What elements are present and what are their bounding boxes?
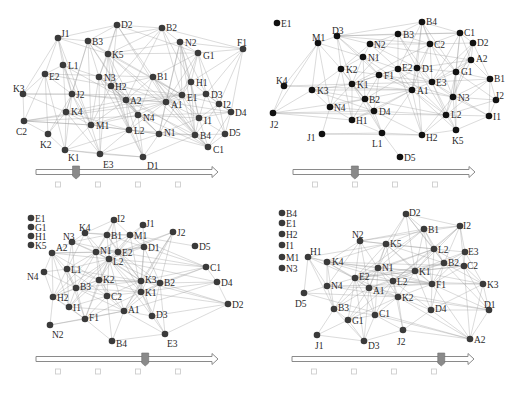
node-dot[interactable] (41, 269, 48, 276)
node-b2[interactable]: B2 (441, 258, 460, 268)
node-dot[interactable] (156, 131, 163, 138)
node-l1[interactable]: L1 (372, 130, 385, 149)
node-j1[interactable]: J1 (314, 332, 324, 351)
node-dot[interactable] (205, 144, 212, 151)
node-dot[interactable] (225, 301, 232, 308)
slider-tick-checkbox[interactable] (433, 182, 438, 187)
node-dot[interactable] (309, 87, 316, 94)
node-dot[interactable] (121, 308, 128, 315)
slider-tick-checkbox[interactable] (352, 369, 357, 374)
node-k4[interactable]: K4 (79, 223, 91, 237)
node-e2[interactable]: E2 (42, 71, 60, 82)
node-dot[interactable] (375, 265, 382, 272)
node-k3[interactable]: K3 (480, 280, 499, 290)
node-dot[interactable] (123, 97, 130, 104)
node-b2[interactable]: B2 (159, 23, 178, 33)
node-c2[interactable]: C2 (104, 292, 123, 302)
node-dot[interactable] (159, 25, 166, 32)
node-dot[interactable] (135, 112, 142, 119)
node-m1[interactable]: M1 (312, 33, 325, 47)
slider-track-arrow[interactable] (293, 167, 475, 178)
node-i2[interactable]: I2 (111, 214, 125, 224)
node-dot[interactable] (397, 154, 404, 161)
node-dot[interactable] (222, 131, 229, 138)
slider-tick-checkbox[interactable] (312, 369, 317, 374)
node-dot[interactable] (279, 242, 286, 249)
node-b4[interactable]: B4 (109, 338, 128, 349)
node-e2[interactable]: E2 (395, 63, 413, 73)
node-f1[interactable]: F1 (237, 38, 247, 53)
node-k3[interactable]: K3 (13, 84, 26, 98)
node-b2[interactable]: B2 (362, 95, 381, 105)
node-dot[interactable] (367, 41, 374, 48)
node-n4[interactable]: N4 (27, 269, 47, 282)
node-k1[interactable]: K1 (138, 288, 157, 298)
node-dot[interactable] (453, 127, 460, 134)
node-dot[interactable] (431, 246, 438, 253)
node-d2[interactable]: D2 (470, 38, 489, 48)
node-dot[interactable] (338, 66, 345, 73)
node-dot[interactable] (109, 338, 116, 345)
node-n2[interactable]: N2 (177, 38, 197, 48)
slider-tick-checkbox[interactable] (136, 182, 141, 187)
node-dot[interactable] (115, 249, 122, 256)
node-dot[interactable] (93, 249, 100, 256)
node-dot[interactable] (203, 91, 210, 98)
node-b4[interactable]: B4 (279, 209, 298, 219)
node-dot[interactable] (274, 20, 281, 27)
node-b1[interactable]: B1 (104, 231, 123, 241)
node-dot[interactable] (372, 312, 379, 319)
node-dot[interactable] (371, 108, 378, 115)
node-dot[interactable] (85, 38, 92, 45)
node-dot[interactable] (480, 281, 487, 288)
node-dot[interactable] (362, 96, 369, 103)
node-m1[interactable]: M1 (279, 253, 300, 263)
node-dot[interactable] (196, 115, 203, 122)
node-dot[interactable] (279, 231, 286, 238)
node-dot[interactable] (28, 215, 35, 222)
node-dot[interactable] (429, 79, 436, 86)
node-dot[interactable] (395, 31, 402, 38)
node-c1[interactable]: C1 (205, 144, 225, 155)
node-dot[interactable] (149, 313, 156, 320)
node-dot[interactable] (327, 104, 334, 111)
node-dot[interactable] (141, 244, 148, 251)
node-n2[interactable]: N2 (352, 230, 364, 245)
node-a1[interactable]: A1 (409, 86, 429, 96)
node-dot[interactable] (395, 294, 402, 301)
node-dot[interactable] (66, 304, 73, 311)
node-dot[interactable] (400, 327, 407, 334)
node-dot[interactable] (138, 278, 145, 285)
node-dot[interactable] (28, 224, 35, 231)
node-dot[interactable] (467, 336, 474, 343)
node-b3[interactable]: B3 (85, 37, 104, 47)
node-d5[interactable]: D5 (397, 153, 416, 163)
node-h2[interactable]: H2 (108, 82, 127, 92)
node-dot[interactable] (60, 62, 67, 69)
node-dot[interactable] (468, 57, 475, 64)
node-k3[interactable]: K3 (309, 86, 329, 96)
node-dot[interactable] (443, 112, 450, 119)
slider-track-arrow[interactable] (36, 354, 218, 365)
node-dot[interactable] (349, 81, 356, 88)
node-c1[interactable]: C1 (372, 309, 391, 319)
node-dot[interactable] (157, 280, 164, 287)
node-b4[interactable]: B4 (419, 17, 438, 27)
node-dot[interactable] (96, 277, 103, 284)
node-k5[interactable]: K5 (28, 241, 47, 251)
node-dot[interactable] (82, 316, 89, 323)
node-i2[interactable]: I2 (493, 91, 504, 104)
node-dot[interactable] (28, 233, 35, 240)
node-n3[interactable]: N3 (450, 93, 470, 103)
node-dot[interactable] (412, 268, 419, 275)
node-dot[interactable] (319, 131, 326, 138)
node-e3[interactable]: E3 (429, 78, 447, 88)
time-slider[interactable] (292, 353, 474, 374)
node-dot[interactable] (192, 132, 199, 139)
slider-tick-checkbox[interactable] (313, 182, 318, 187)
slider-tick-checkbox[interactable] (96, 182, 101, 187)
node-c1[interactable]: C1 (457, 28, 476, 38)
node-l1[interactable]: L1 (60, 61, 79, 71)
node-a2[interactable]: A2 (467, 335, 486, 345)
node-n1[interactable]: N1 (156, 128, 176, 138)
